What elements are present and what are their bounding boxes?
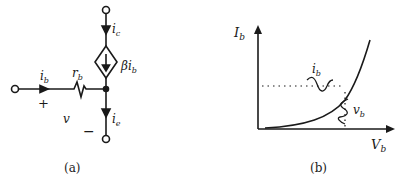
ib-waveform [307,77,333,91]
rb-label: rb [72,66,83,82]
emitter-terminal [103,136,110,143]
iv-characteristic-plot [254,25,395,133]
circuit-labels: ic βib ib rb + v − ie (a) [38,22,137,175]
ib-label: ib [40,69,49,85]
x-axis-arrow-icon [386,125,395,133]
minus-sign: − [83,123,95,139]
v-label: v [63,112,70,126]
collector-terminal [103,7,110,14]
ib-small-signal-label: ib [312,62,321,78]
ib-arrow-icon [40,86,48,93]
y-axis-label: Ib [233,25,245,42]
ie-label: ie [112,112,121,128]
plot-labels: Ib Vb ib vb (b) [233,25,386,175]
plus-sign: + [38,96,49,111]
caption-b: (b) [310,161,327,175]
base-terminal [12,86,19,93]
caption-a: (a) [64,161,81,175]
resistor-rb [70,82,106,97]
figure-canvas: ic βib ib rb + v − ie (a) Ib Vb ib vb (b… [0,0,405,182]
source-arrow-icon [103,65,110,71]
x-axis-label: Vb [371,137,386,154]
ic-label: ic [112,22,121,38]
vb-small-signal-label: vb [353,103,365,119]
ic-arrow-icon [102,26,110,34]
ie-arrow-icon [102,109,110,117]
source-label: βib [120,59,137,75]
y-axis-arrow-icon [254,25,262,34]
